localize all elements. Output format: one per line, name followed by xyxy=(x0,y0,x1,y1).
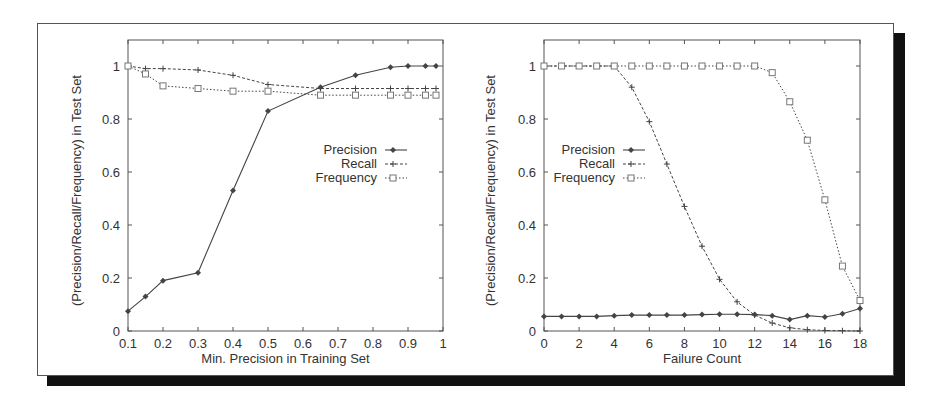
frequency-point xyxy=(423,92,429,98)
precision-point xyxy=(629,312,635,318)
chart-precision-vs-min-precision: 0.10.20.30.40.50.60.70.80.9100.20.40.60.… xyxy=(69,40,447,366)
frequency-point xyxy=(734,63,740,69)
x-axis-label: Min. Precision in Training Set xyxy=(201,351,370,366)
x-tick-label: 0.8 xyxy=(364,336,382,351)
frequency-point xyxy=(594,63,600,69)
x-tick-label: 2 xyxy=(575,336,582,351)
x-tick-label: 0.3 xyxy=(189,336,207,351)
y-tick-label: 1 xyxy=(113,59,120,74)
recall-point xyxy=(433,86,439,92)
frequency-point xyxy=(769,70,775,76)
precision-point xyxy=(839,311,845,317)
series-line xyxy=(128,66,436,311)
precision-point xyxy=(353,72,359,78)
precision-point xyxy=(734,311,740,317)
frequency-point xyxy=(125,63,131,69)
recall-point xyxy=(769,320,775,326)
recall-point xyxy=(195,67,201,73)
legend-precision-point xyxy=(628,147,634,153)
legend-label-frequency: Frequency xyxy=(554,170,616,185)
frequency-point xyxy=(265,88,271,94)
x-tick-label: 0.9 xyxy=(399,336,417,351)
series-precision xyxy=(541,305,863,322)
legend-frequency-point xyxy=(390,175,396,181)
frequency-point xyxy=(541,63,547,69)
precision-point xyxy=(769,313,775,319)
frequency-point xyxy=(717,63,723,69)
frequency-point xyxy=(160,83,166,89)
frequency-point xyxy=(353,92,359,98)
x-tick-label: 10 xyxy=(712,336,726,351)
y-tick-label: 1 xyxy=(529,59,536,74)
precision-point xyxy=(681,312,687,318)
y-tick-label: 0.8 xyxy=(518,112,536,127)
recall-point xyxy=(629,84,635,90)
recall-point xyxy=(857,328,863,334)
x-tick-label: 0.2 xyxy=(154,336,172,351)
recall-point xyxy=(423,86,429,92)
charts-canvas: 0.10.20.30.40.50.60.70.80.9100.20.40.60.… xyxy=(0,0,936,409)
series-line xyxy=(128,66,436,95)
precision-point xyxy=(611,313,617,319)
frequency-point xyxy=(752,63,758,69)
x-tick-label: 12 xyxy=(747,336,761,351)
recall-point xyxy=(353,86,359,92)
recall-point xyxy=(230,72,236,78)
legend-label-recall: Recall xyxy=(579,156,615,171)
y-tick-label: 0.2 xyxy=(518,271,536,286)
legend-precision-point xyxy=(390,147,396,153)
x-tick-label: 4 xyxy=(611,336,618,351)
frequency-point xyxy=(699,63,705,69)
y-tick-label: 0 xyxy=(529,324,536,339)
y-axis-label: (Precision/Recall/Frequency) in Test Set xyxy=(483,75,498,306)
x-tick-label: 18 xyxy=(853,336,867,351)
x-tick-label: 0.6 xyxy=(294,336,312,351)
y-tick-label: 0.4 xyxy=(518,218,536,233)
x-tick-label: 1 xyxy=(439,336,446,351)
frequency-point xyxy=(787,99,793,105)
y-tick-label: 0 xyxy=(113,324,120,339)
y-axis-label: (Precision/Recall/Frequency) in Test Set xyxy=(69,75,84,306)
x-tick-label: 0.4 xyxy=(224,336,242,351)
precision-point xyxy=(646,312,652,318)
legend-recall-point xyxy=(390,161,396,167)
recall-point xyxy=(664,161,670,167)
legend-label-frequency: Frequency xyxy=(316,170,378,185)
x-tick-label: 6 xyxy=(646,336,653,351)
precision-point xyxy=(857,305,863,311)
precision-point xyxy=(787,317,793,323)
precision-point xyxy=(433,63,439,69)
frequency-point xyxy=(681,63,687,69)
legend-label-precision: Precision xyxy=(324,142,377,157)
y-tick-label: 0.6 xyxy=(102,165,120,180)
recall-point xyxy=(681,203,687,209)
recall-point xyxy=(804,327,810,333)
recall-point xyxy=(388,86,394,92)
precision-point xyxy=(699,312,705,318)
frequency-point xyxy=(559,63,565,69)
series-precision xyxy=(125,63,439,314)
recall-point xyxy=(787,325,793,331)
y-tick-label: 0.4 xyxy=(102,218,120,233)
x-tick-label: 0.1 xyxy=(119,336,137,351)
recall-point xyxy=(822,327,828,333)
frequency-point xyxy=(804,137,810,143)
x-tick-label: 14 xyxy=(783,336,797,351)
frequency-point xyxy=(318,92,324,98)
series-line xyxy=(544,66,860,331)
recall-point xyxy=(699,243,705,249)
recall-point xyxy=(265,82,271,88)
legend-label-recall: Recall xyxy=(341,156,377,171)
plot-area-border xyxy=(128,40,443,331)
frequency-point xyxy=(822,197,828,203)
precision-point xyxy=(822,314,828,320)
frequency-point xyxy=(405,92,411,98)
recall-point xyxy=(405,86,411,92)
legend-frequency-point xyxy=(628,175,634,181)
frequency-point xyxy=(839,263,845,269)
precision-point xyxy=(664,312,670,318)
recall-point xyxy=(160,66,166,72)
y-tick-label: 0.2 xyxy=(102,271,120,286)
precision-point xyxy=(559,313,565,319)
frequency-point xyxy=(388,92,394,98)
